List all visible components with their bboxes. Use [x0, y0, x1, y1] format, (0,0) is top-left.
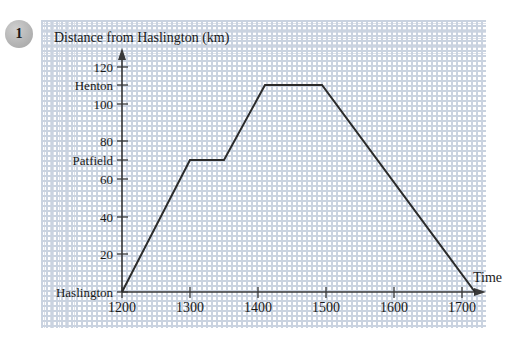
x-tick-label-1700: 1700 — [432, 301, 492, 315]
graph-question-page: 1 — [0, 0, 524, 342]
x-tick-label-1300: 1300 — [160, 301, 220, 315]
x-tick-label-1400: 1400 — [228, 301, 288, 315]
y-tick-label-20: 20 — [13, 248, 113, 261]
x-axis — [122, 288, 486, 296]
x-tick-label-1600: 1600 — [364, 301, 424, 315]
y-tick-label-haslington: Haslington — [13, 286, 113, 299]
x-tick-label-1200: 1200 — [92, 301, 152, 315]
y-tick-label-100: 100 — [13, 98, 113, 111]
y-axis-title: Distance from Haslington (km) — [54, 31, 229, 45]
x-axis-title: Time — [473, 271, 502, 285]
y-tick-label-60: 60 — [13, 173, 113, 186]
x-tick-label-1500: 1500 — [296, 301, 356, 315]
y-tick-label-patfield: Patfield — [13, 154, 113, 167]
y-tick-label-80: 80 — [13, 135, 113, 148]
y-tick-label-henton: Henton — [13, 79, 113, 92]
journey-line — [122, 85, 475, 292]
y-tick-label-120: 120 — [13, 61, 113, 74]
y-tick-label-40: 40 — [13, 211, 113, 224]
